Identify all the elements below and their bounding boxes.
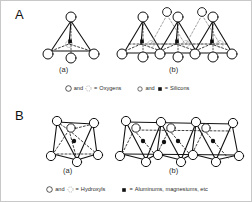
single-tetrahedron-a xyxy=(43,12,99,63)
legend-item-silicons: and = Silicons xyxy=(137,86,189,92)
panel-b-legend: and = Hydroxyls = Aluminums, magnesiums,… xyxy=(1,186,252,193)
open-circle-icon xyxy=(65,85,72,92)
legend-item-hydroxyls: and = Hydroxyls xyxy=(46,186,105,193)
panel-a-label-b: (b) xyxy=(169,65,178,74)
panel-a-label-a: (a) xyxy=(59,65,68,74)
small-open-circle-icon xyxy=(137,86,143,92)
legend-and-word: and xyxy=(74,86,83,92)
legend-equals-cations: = xyxy=(129,187,132,193)
octahedral-sheet-b xyxy=(115,116,243,166)
filled-square-icon xyxy=(157,86,163,92)
figure-container: A xyxy=(0,0,252,202)
single-octahedron-a xyxy=(46,116,102,166)
legend-label-cations: Aluminums, magnesiums, etc xyxy=(135,187,208,193)
legend-label-oxygens: Oxygens xyxy=(99,86,121,92)
legend-item-cations: = Aluminums, magnesiums, etc xyxy=(121,187,207,193)
panel-a-legend: and = Oxygens and = Silicons xyxy=(1,85,252,92)
tetrahedral-sheet-a xyxy=(117,8,237,62)
legend-equals-oxygens: = xyxy=(94,86,97,92)
legend-label-hydroxyls: Hydroxyls xyxy=(81,187,106,193)
panel-b-label-b: (b) xyxy=(169,166,178,175)
legend-label-silicons: Silicons xyxy=(170,86,189,92)
filled-square-icon xyxy=(121,187,127,193)
dotted-circle-icon xyxy=(67,186,74,193)
panel-b-label-a: (a) xyxy=(63,166,72,175)
panel-b: B xyxy=(1,102,252,202)
legend-and-word-3: and xyxy=(55,187,64,193)
panel-a: A xyxy=(1,1,252,102)
legend-and-word-2: and xyxy=(145,86,154,92)
legend-equals-hydroxyls: = xyxy=(76,187,79,193)
legend-equals-silicons: = xyxy=(165,86,168,92)
open-circle-icon xyxy=(46,186,53,193)
legend-item-oxygens: and = Oxygens xyxy=(65,85,122,92)
dotted-circle-icon xyxy=(85,85,92,92)
